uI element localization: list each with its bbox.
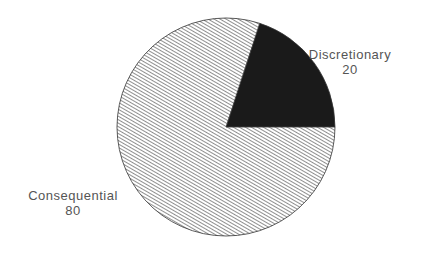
label-discretionary: Discretionary 20 (290, 47, 410, 77)
label-consequential: Consequential 80 (18, 188, 128, 218)
label-consequential-name: Consequential (18, 188, 128, 203)
label-discretionary-value: 20 (290, 62, 410, 77)
label-consequential-value: 80 (18, 203, 128, 218)
label-discretionary-name: Discretionary (290, 47, 410, 62)
